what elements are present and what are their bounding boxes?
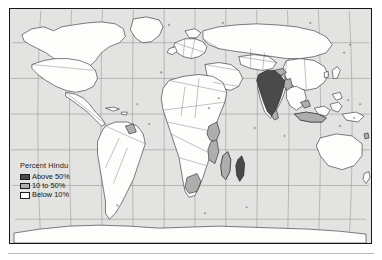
island-timor: [339, 125, 340, 126]
island-socotra: [208, 107, 209, 108]
legend-item-below-10: Below 10%: [20, 191, 98, 200]
legend-swatch-below-10: [20, 192, 30, 199]
island-palau: [348, 100, 349, 101]
island-bermuda: [137, 104, 138, 105]
legend-title: Percent Hindu: [20, 161, 98, 170]
island-solomon: [353, 117, 354, 118]
island-iceland: [168, 24, 170, 26]
island-chagos: [284, 135, 285, 136]
island-svalbard: [222, 22, 223, 23]
island-south-georgia: [204, 213, 205, 214]
legend-label-below-10: Below 10%: [32, 191, 69, 200]
legend-label-10-to-50: 10 to 50%: [32, 182, 65, 191]
region-korea: [324, 71, 328, 77]
island-seychelles: [218, 98, 219, 99]
island-maldives: [254, 127, 255, 128]
world-map-svg: [10, 9, 371, 243]
legend-label-above-50: Above 50%: [32, 173, 70, 182]
island-cape-verde: [149, 123, 150, 124]
island-sakhalin: [343, 52, 344, 53]
legend-swatch-above-50: [20, 174, 30, 181]
world-map-frame: [9, 8, 372, 244]
island-new-siberian: [310, 22, 311, 23]
island-micronesia: [359, 104, 360, 105]
map-legend: Percent Hindu Above 50% 10 to 50% Below …: [20, 161, 98, 201]
island-falklands: [117, 205, 118, 206]
footer-divider: [8, 253, 374, 254]
island-kerguelen: [246, 207, 247, 208]
legend-swatch-10-to-50: [20, 183, 30, 190]
figure-container: Percent Hindu Above 50% 10 to 50% Below …: [0, 0, 382, 260]
region-fiji: [364, 133, 369, 139]
legend-item-above-50: Above 50%: [20, 173, 98, 182]
island-kamchatka-isle: [350, 44, 351, 45]
legend-item-10-to-50: 10 to 50%: [20, 182, 98, 191]
island-canaries: [160, 72, 162, 74]
